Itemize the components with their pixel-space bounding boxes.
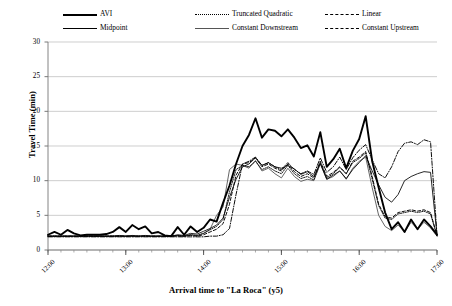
series-line-midpoint: [48, 156, 437, 236]
y-tick-label: 0: [18, 246, 40, 254]
series-line-avi: [48, 116, 437, 236]
series-line-truncated-quadratic: [48, 153, 437, 236]
travel-time-chart-figure: AVI Midpoint Truncated Quadratic Constan…: [0, 0, 452, 306]
y-tick-label: 15: [18, 142, 40, 150]
y-tick-label: 10: [18, 176, 40, 184]
series-line-constant-downstream: [48, 157, 437, 236]
y-tick-label: 30: [18, 38, 40, 46]
y-tick-label: 5: [18, 211, 40, 219]
y-tick-label: 25: [18, 72, 40, 80]
y-tick-label: 20: [18, 107, 40, 115]
plot-area: [0, 0, 452, 306]
